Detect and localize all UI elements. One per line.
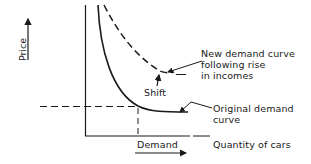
y-axis-label: Price — [17, 35, 28, 65]
shift-label: Shift — [144, 87, 166, 98]
original-curve-label-line-1: Original demand — [213, 103, 294, 114]
original-curve-pointer-icon — [180, 102, 212, 112]
shift-arrow-icon — [157, 75, 159, 86]
new-curve-label-line-1: New demand curve — [201, 48, 295, 59]
original-curve-label-line-2: curve — [213, 114, 240, 125]
demand-marker-label: Demand — [137, 139, 178, 150]
new-curve-pointer-icon — [168, 61, 202, 72]
x-axis-label: Quantity of cars — [213, 139, 291, 150]
new-curve-label-line-3: in incomes — [201, 70, 253, 81]
new-curve-label-line-2: following rise — [201, 59, 265, 70]
new-demand-curve — [104, 5, 174, 73]
